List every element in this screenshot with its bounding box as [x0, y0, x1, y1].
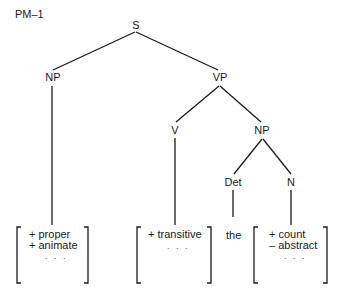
node-np-object: NP: [254, 124, 269, 136]
node-s: S: [132, 19, 139, 31]
feature-transitive: + transitive: [148, 229, 202, 240]
feature-animate: + animate: [29, 240, 78, 251]
feature-abstract: – abstract: [269, 240, 317, 251]
ellipsis: . . .: [45, 251, 68, 261]
word-the: the: [226, 230, 241, 241]
node-v: V: [171, 124, 178, 136]
node-vp: VP: [213, 71, 228, 83]
ellipsis: . . .: [284, 251, 307, 261]
node-n: N: [287, 176, 295, 188]
ellipsis: . . .: [167, 241, 190, 251]
node-det: Det: [224, 176, 241, 188]
node-np-subject: NP: [45, 71, 60, 83]
